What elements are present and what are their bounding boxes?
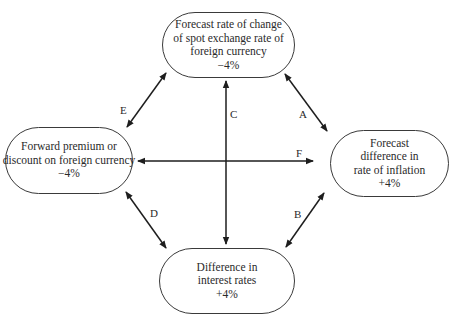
node-forward-premium-discount: Forward premium or discount on foreign c… <box>5 127 133 194</box>
node-text-line: difference in <box>360 150 418 164</box>
node-text-line: Forecast <box>370 137 409 151</box>
node-value: −4% <box>58 167 80 181</box>
edge-label-f: F <box>296 147 302 159</box>
node-text-line: Forward premium or <box>21 140 117 154</box>
edge-label-e: E <box>120 104 127 116</box>
edge-label-c: C <box>230 108 237 120</box>
node-forecast-spot-rate-change: Forecast rate of change of spot exchange… <box>162 12 295 78</box>
node-value: −4% <box>218 59 240 73</box>
node-text-line: rate of inflation <box>354 164 426 178</box>
node-text-line: discount on foreign currency <box>3 154 136 168</box>
node-value: +4% <box>216 288 238 302</box>
node-text-line: of spot exchange rate of <box>173 32 283 46</box>
arrow-a <box>285 74 327 131</box>
edge-label-d: D <box>150 207 158 219</box>
node-text-line: Difference in <box>197 261 258 275</box>
arrow-d <box>126 192 166 248</box>
node-value: +4% <box>379 177 401 191</box>
arrow-e <box>127 73 166 127</box>
node-forecast-inflation-difference: Forecast difference in rate of inflation… <box>330 130 449 197</box>
node-text-line: interest rates <box>198 274 256 288</box>
parity-diagram: Forecast rate of change of spot exchange… <box>0 0 456 315</box>
node-text-line: Forecast rate of change <box>175 18 282 32</box>
arrow-b <box>286 193 324 247</box>
node-text-line: foreign currency <box>190 45 266 59</box>
node-interest-rate-difference: Difference in interest rates +4% <box>159 248 295 314</box>
edge-label-a: A <box>299 108 307 120</box>
edge-label-b: B <box>294 208 301 220</box>
